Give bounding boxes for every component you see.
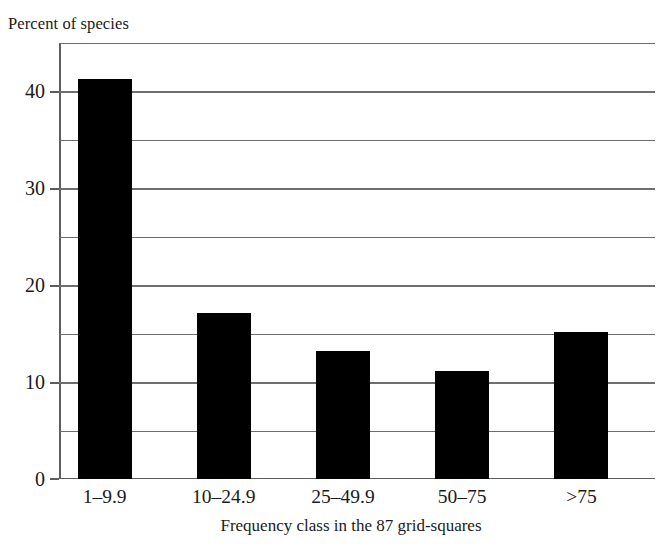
x-tick-label: 50–75 bbox=[438, 487, 487, 507]
y-tick-mark bbox=[50, 188, 59, 189]
x-tick-label: 10–24.9 bbox=[192, 487, 255, 507]
x-tick-label: >75 bbox=[566, 487, 597, 507]
plot-area: 010203040 bbox=[59, 43, 655, 479]
bar bbox=[316, 351, 370, 479]
y-tick-mark bbox=[50, 382, 59, 383]
x-tick-label: 25–49.9 bbox=[311, 487, 374, 507]
y-tick-label: 40 bbox=[25, 81, 45, 101]
bar-chart: Percent of species 010203040 1–9.910–24.… bbox=[0, 0, 666, 554]
y-tick-label: 0 bbox=[35, 469, 45, 489]
x-axis-ticks: 1–9.910–24.925–49.950–75>75 bbox=[59, 487, 655, 517]
y-tick-mark bbox=[50, 285, 59, 286]
bar bbox=[197, 313, 251, 479]
bar bbox=[554, 332, 608, 479]
y-axis-title: Percent of species bbox=[8, 16, 129, 33]
bar bbox=[435, 371, 489, 480]
y-tick-label: 30 bbox=[25, 178, 45, 198]
x-axis-title: Frequency class in the 87 grid-squares bbox=[0, 517, 666, 534]
y-tick-mark bbox=[50, 91, 59, 92]
y-tick-mark bbox=[50, 479, 59, 480]
bars-layer bbox=[59, 43, 655, 479]
bar bbox=[78, 79, 132, 479]
y-tick-label: 20 bbox=[25, 275, 45, 295]
y-tick-label: 10 bbox=[25, 372, 45, 392]
x-tick-label: 1–9.9 bbox=[83, 487, 127, 507]
